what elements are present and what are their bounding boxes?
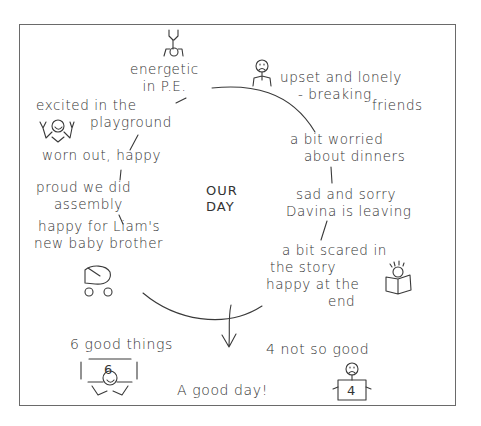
down-arrow-icon <box>222 305 236 347</box>
event-story: a bit scared in the story happy at the e… <box>266 242 387 310</box>
event-wornout: worn out, happy <box>42 147 161 164</box>
diagram-title: OUR DAY <box>206 183 238 215</box>
good-count-sign: 6 <box>104 362 112 377</box>
bad-count-sign: 4 <box>347 383 355 398</box>
event-friends: upset and lonely - breaking friends <box>280 69 423 114</box>
pram-icon <box>85 266 112 296</box>
cycle-arc-bottom <box>143 293 262 320</box>
good-things-label: 6 good things <box>70 336 173 353</box>
sad-figure-icon <box>253 60 271 86</box>
event-assembly: proud we did assembly <box>36 179 131 213</box>
not-so-good-label: 4 not so good <box>266 341 369 358</box>
event-playground: excited in the playground <box>36 97 172 131</box>
verdict-label: A good day! <box>177 382 268 399</box>
event-pe: energetic in P.E. <box>130 61 199 95</box>
connector-pe <box>176 98 186 103</box>
title-line-1: OUR <box>206 183 238 199</box>
connector-davina <box>321 221 327 240</box>
connector-dinners <box>331 167 332 183</box>
handstand-figure-icon <box>164 30 183 56</box>
event-dinners: a bit worried about dinners <box>290 131 405 165</box>
event-baby: happy for Liam's new baby brother <box>34 218 163 252</box>
reading-figure-icon <box>386 261 411 294</box>
event-davina: sad and sorry Davina is leaving <box>286 186 412 220</box>
title-line-2: DAY <box>206 199 238 215</box>
